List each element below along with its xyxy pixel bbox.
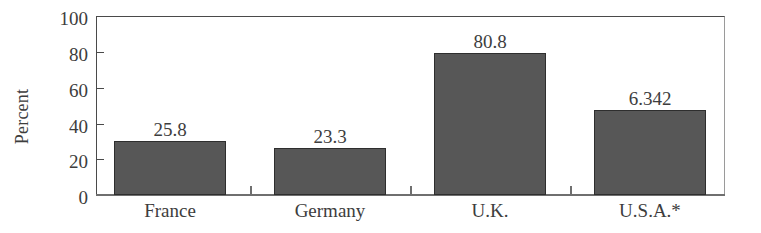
bar-uk[interactable] [434, 53, 546, 195]
y-tick-label-60: 60 [42, 81, 88, 100]
x-axis-category-labels: France Germany U.K. U.S.A.* [96, 198, 725, 233]
bar-value-france: 25.8 [114, 120, 226, 139]
y-tick-label-20: 20 [42, 152, 88, 171]
y-tick-label-0: 0 [42, 188, 88, 207]
y-tick-label-40: 40 [42, 117, 88, 136]
plot-area: 25.8 23.3 80.8 6.342 [96, 16, 725, 195]
category-label-usa: U.S.A.* [594, 198, 706, 224]
y-tick-label-100: 100 [42, 9, 88, 28]
category-label-germany: Germany [274, 198, 386, 224]
x-minor-tick-3 [570, 186, 572, 195]
bar-value-germany: 23.3 [274, 127, 386, 146]
bar-chart: Percent 100 80 60 40 20 0 25.8 23.3 80.8… [0, 0, 761, 233]
category-label-uk: U.K. [434, 198, 546, 224]
bar-value-usa: 6.342 [594, 89, 706, 108]
category-label-france: France [114, 198, 226, 224]
bar-usa[interactable] [594, 110, 706, 195]
bar-germany[interactable] [274, 148, 386, 195]
y-axis-title: Percent [0, 0, 44, 233]
y-axis-tick-labels: 100 80 60 40 20 0 [42, 0, 88, 233]
x-minor-tick-1 [250, 186, 252, 195]
bar-france[interactable] [114, 141, 226, 195]
bar-value-uk: 80.8 [434, 32, 546, 51]
x-minor-tick-2 [410, 186, 412, 195]
y-tick-label-80: 80 [42, 45, 88, 64]
